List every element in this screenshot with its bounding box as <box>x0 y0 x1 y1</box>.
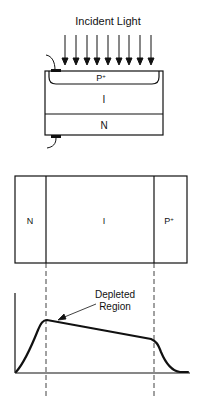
annotation-depleted: Depleted <box>95 289 135 300</box>
incident-light-title: Incident Light <box>75 15 140 27</box>
top-n-label: N <box>100 120 107 131</box>
cs-i-label: I <box>103 216 106 226</box>
pin-photodiode-diagram: Incident Light P+ I N <box>0 0 201 408</box>
arrow-icon <box>94 35 100 65</box>
cs-n-label: N <box>27 216 34 226</box>
bottom-contact-pad <box>51 135 61 138</box>
arrow-icon <box>73 35 79 65</box>
arrow-icon <box>126 35 132 65</box>
cross-section-body <box>15 176 187 263</box>
top-p-plus-label: P+ <box>96 73 106 83</box>
top-contact-wire <box>46 55 55 70</box>
arrow-icon <box>84 35 90 65</box>
top-device: P+ I N <box>45 55 163 148</box>
top-i-label: I <box>103 94 106 105</box>
bottom-contact-wire <box>47 138 56 148</box>
annotation-region: Region <box>99 301 131 312</box>
arrow-icon <box>148 35 154 65</box>
field-curve <box>16 320 188 372</box>
arrow-icon <box>62 35 68 65</box>
arrow-icon <box>105 35 111 65</box>
arrow-icon <box>137 35 143 65</box>
cross-section: N I P+ <box>15 176 187 263</box>
field-profile-graph: Depleted Region <box>15 289 190 373</box>
annotation-arrow-icon <box>58 304 96 320</box>
cs-p-plus-label: P+ <box>164 216 174 226</box>
arrow-icon <box>116 35 122 65</box>
incident-light-arrows <box>62 35 154 65</box>
